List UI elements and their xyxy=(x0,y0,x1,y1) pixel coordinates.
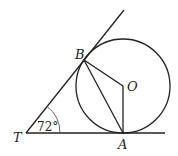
segment-ba xyxy=(84,60,123,133)
tangent-line-tb xyxy=(26,10,124,133)
label-a: A xyxy=(117,137,127,152)
label-t: T xyxy=(13,130,23,145)
diagram-svg: T B O A 72° xyxy=(0,0,178,156)
geometry-diagram: T B O A 72° xyxy=(0,0,178,156)
angle-label-72: 72° xyxy=(37,120,58,134)
label-b: B xyxy=(74,47,85,62)
label-o: O xyxy=(127,79,138,94)
segment-bo xyxy=(84,60,123,86)
